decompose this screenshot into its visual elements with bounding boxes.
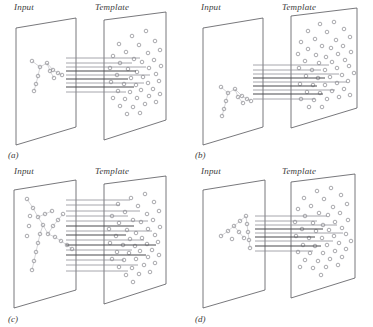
panel-c: Input Template xyxy=(0,164,186,327)
template-scatter-b xyxy=(296,20,356,109)
input-plane-d xyxy=(203,180,265,308)
input-plane-c xyxy=(14,180,76,308)
input-plane-b xyxy=(203,18,263,145)
input-constellation-d xyxy=(219,214,252,250)
panel-d: Input Template xyxy=(187,164,373,327)
match-lines-d xyxy=(255,216,343,251)
template-scatter-a xyxy=(108,29,163,116)
figure-four-panel-matching: Input Template xyxy=(0,0,373,327)
match-lines-b xyxy=(253,65,347,99)
panel-caption-d: (d) xyxy=(195,314,206,324)
panel-caption-c: (c) xyxy=(8,314,18,324)
panel-a: Input Template xyxy=(0,0,186,163)
match-lines-a xyxy=(66,58,150,92)
panel-b: Input Template xyxy=(187,0,373,163)
template-scatter-c xyxy=(107,192,162,284)
panel-caption-a: (a) xyxy=(8,150,19,160)
input-plane-a xyxy=(16,18,76,145)
panel-caption-b: (b) xyxy=(195,150,206,160)
template-scatter-d xyxy=(293,186,353,277)
input-constellation-b xyxy=(219,85,253,118)
match-lines-c xyxy=(66,200,156,271)
input-constellation-a xyxy=(30,59,64,93)
